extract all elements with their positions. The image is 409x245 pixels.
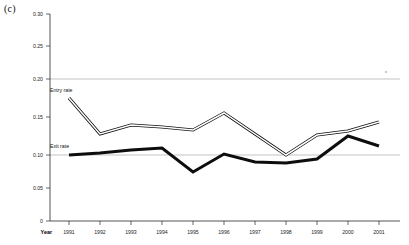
x-tick-label-1996: 1996 xyxy=(218,229,230,235)
series-line-exit-rate xyxy=(69,136,379,172)
x-tick-label-1995: 1995 xyxy=(187,229,199,235)
line-chart: 0.30 0.25 0.20 0.15 0.10 0.05 0 Year 19 xyxy=(0,0,409,245)
gridlines xyxy=(50,79,400,155)
x-tick-labels: 1991 1992 1993 1994 1995 1996 1997 1998 … xyxy=(63,229,385,235)
y-tick-marks xyxy=(46,14,50,221)
y-tick-label-0.20: 0.20 xyxy=(33,76,43,82)
x-tick-label-1991: 1991 xyxy=(63,229,75,235)
x-tick-label-2000: 2000 xyxy=(342,229,354,235)
series-annotation-entry-rate: Entry rate xyxy=(50,87,73,93)
x-tick-label-1992: 1992 xyxy=(94,229,106,235)
series-annotation-exit-rate: Exit rate xyxy=(50,143,69,149)
x-tick-marks xyxy=(69,221,379,225)
y-tick-label-0.05: 0.05 xyxy=(33,185,43,191)
y-tick-label-0.15: 0.15 xyxy=(33,114,43,120)
scan-artifact-speck xyxy=(385,71,387,73)
x-tick-label-1998: 1998 xyxy=(280,229,292,235)
chart-figure: (c) 0.30 0.25 0.20 0.15 0.10 0.0 xyxy=(0,0,409,245)
x-tick-label-1997: 1997 xyxy=(249,229,261,235)
x-axis-label: Year xyxy=(41,229,53,235)
y-tick-label-0.30: 0.30 xyxy=(33,11,43,17)
x-tick-label-2001: 2001 xyxy=(373,229,385,235)
y-tick-label-0.10: 0.10 xyxy=(33,152,43,158)
x-tick-label-1999: 1999 xyxy=(311,229,323,235)
x-tick-label-1993: 1993 xyxy=(125,229,137,235)
y-tick-label-0.25: 0.25 xyxy=(33,43,43,49)
y-tick-label-0: 0 xyxy=(40,218,43,224)
x-tick-label-1994: 1994 xyxy=(156,229,168,235)
y-tick-labels: 0.30 0.25 0.20 0.15 0.10 0.05 0 xyxy=(33,11,43,224)
